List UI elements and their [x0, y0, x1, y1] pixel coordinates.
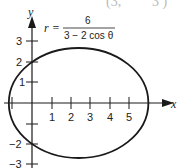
header-fragment-left: (3, — [106, 0, 121, 10]
x-tick-label: 3 — [87, 111, 93, 123]
polar-graph: (3, 3 ) x y 1 2 3 4 5 3 2 1 −2 −3 r = 6 … — [0, 0, 180, 168]
header-fragment-right: 3 ) — [152, 0, 168, 10]
equation-numerator: 6 — [85, 15, 91, 26]
y-axis-label: y — [27, 5, 34, 19]
graph-canvas: (3, 3 ) x y 1 2 3 4 5 3 2 1 −2 −3 r = 6 … — [0, 0, 180, 168]
y-tick-label: −2 — [9, 138, 22, 150]
x-axis-label: x — [170, 97, 177, 111]
equation-lhs: r = — [44, 21, 60, 35]
x-tick-label: 1 — [49, 111, 55, 123]
equation-denominator: 3 − 2 cos θ — [64, 30, 114, 41]
y-tick-label: −3 — [9, 158, 22, 168]
x-tick-label: 4 — [107, 111, 113, 123]
y-tick-label: 1 — [19, 76, 25, 88]
x-tick-label: 2 — [68, 111, 74, 123]
y-tick-label: 3 — [16, 35, 22, 47]
y-tick-label: 2 — [16, 56, 22, 68]
x-tick-label: 5 — [126, 111, 132, 123]
